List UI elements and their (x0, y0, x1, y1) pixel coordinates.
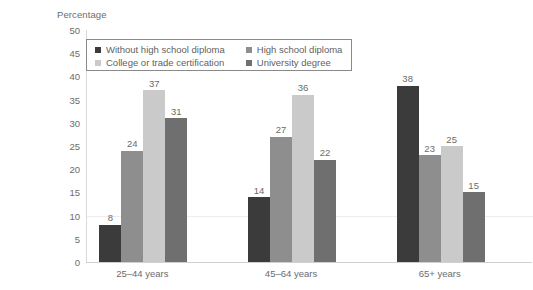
legend-swatch-icon (246, 47, 252, 53)
legend-swatch-icon (246, 60, 252, 66)
legend-swatch-icon (95, 47, 101, 53)
legend-label: College or trade certification (106, 58, 224, 68)
bar: 31 (165, 118, 187, 262)
y-axis-tick-label: 20 (54, 164, 80, 175)
bar: 23 (419, 155, 441, 262)
y-axis-tick-label: 10 (54, 210, 80, 221)
bar-value-label: 25 (446, 135, 457, 145)
legend-label: Without high school diploma (106, 45, 225, 55)
bar: 15 (463, 192, 485, 262)
bar-value-label: 37 (149, 79, 160, 89)
legend-label: High school diploma (257, 45, 343, 55)
bar-value-label: 38 (402, 74, 413, 84)
legend-item-without-high-school-diploma: Without high school diploma (87, 45, 246, 55)
bar-value-label: 31 (171, 107, 182, 117)
legend-swatch-icon (95, 60, 101, 66)
bar: 36 (292, 95, 314, 262)
y-axis-ticks: 50454035302520151050 (52, 30, 80, 262)
bar-value-label: 15 (468, 181, 479, 191)
bar-value-label: 24 (127, 139, 138, 149)
bar-value-label: 22 (320, 148, 331, 158)
bar-group: 38232515 (397, 30, 485, 262)
legend-row: College or trade certification Universit… (87, 56, 351, 69)
bar: 27 (270, 137, 292, 262)
bar-value-label: 14 (254, 186, 265, 196)
bar: 37 (143, 90, 165, 262)
y-axis-tick-label: 45 (54, 48, 80, 59)
bar: 8 (99, 225, 121, 262)
y-axis-tick-label: 30 (54, 117, 80, 128)
y-axis-tick-label: 35 (54, 94, 80, 105)
y-axis-title: Percentage (57, 9, 107, 20)
x-axis-tick-label: 25–44 years (116, 268, 168, 279)
bar: 14 (248, 197, 270, 262)
x-axis-line (86, 262, 532, 263)
x-axis-tick-label: 45–64 years (265, 268, 317, 279)
legend-item-college-or-trade-certification: College or trade certification (87, 58, 246, 68)
legend-item-high-school-diploma: High school diploma (246, 45, 351, 55)
bar-value-label: 23 (424, 144, 435, 154)
legend-item-university-degree: University degree (246, 58, 351, 68)
y-axis-tick-label: 0 (54, 257, 80, 268)
x-axis-tick-label: 65+ years (419, 268, 461, 279)
y-axis-tick-label: 40 (54, 71, 80, 82)
legend-row: Without high school diploma High school … (87, 43, 351, 56)
bar-value-label: 8 (108, 213, 113, 223)
y-axis-tick-label: 50 (54, 25, 80, 36)
y-axis-tick-label: 5 (54, 233, 80, 244)
bar: 22 (314, 160, 336, 262)
y-axis-tick-label: 25 (54, 141, 80, 152)
bar-value-label: 36 (298, 83, 309, 93)
bar-value-label: 27 (276, 125, 287, 135)
y-axis-tick-label: 15 (54, 187, 80, 198)
bar: 38 (397, 86, 419, 262)
legend-label: University degree (257, 58, 331, 68)
bar: 25 (441, 146, 463, 262)
bar: 24 (121, 151, 143, 262)
chart-legend: Without high school diploma High school … (86, 39, 352, 71)
